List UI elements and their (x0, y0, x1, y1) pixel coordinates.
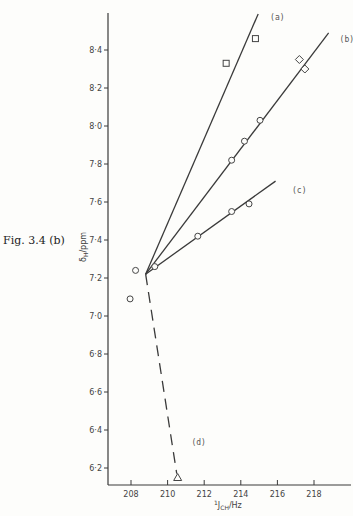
square-marker (252, 36, 258, 42)
fit-line (146, 274, 177, 474)
series-labels: (a)(b)(c)(d) (191, 13, 353, 448)
y-tick-label: 7·2 (89, 274, 102, 283)
y-tick-label: 8·2 (89, 84, 102, 93)
y-tick-label: 6·2 (89, 464, 102, 473)
circle-marker (229, 157, 235, 163)
y-tick-label: 6·6 (89, 388, 102, 397)
circle-marker (257, 117, 263, 123)
y-tick-label: 6·4 (89, 426, 102, 435)
series-label: (d) (191, 438, 205, 447)
figure-label: Fig. 3.4 (b) (3, 234, 65, 247)
data-markers (127, 36, 309, 481)
y-tick-label: 7·6 (89, 198, 102, 207)
circle-marker (152, 264, 158, 270)
x-tick-label: 212 (197, 490, 212, 499)
x-tick-label: 214 (233, 490, 248, 499)
x-tick-label: 208 (123, 490, 138, 499)
y-axis-title: δH/ppm (79, 232, 89, 262)
chart: Fig. 3.4 (b) 6·26·46·66·87·07·27·47·67·8… (0, 0, 353, 516)
circle-marker (133, 267, 139, 273)
x-tick-label: 210 (160, 490, 175, 499)
series-label: (c) (292, 186, 306, 195)
circle-marker (195, 233, 201, 239)
x-tick-label: 216 (270, 490, 285, 499)
circle-marker (127, 296, 133, 302)
fit-line (146, 14, 259, 274)
y-tick-label: 8·0 (89, 122, 102, 131)
fit-lines (146, 14, 329, 474)
diamond-marker (301, 65, 309, 73)
series-label: (a) (270, 13, 284, 22)
y-tick-label: 7·0 (89, 312, 102, 321)
y-tick-label: 8·4 (89, 46, 102, 55)
y-tick-label: 7·4 (89, 236, 102, 245)
x-tick-label: 218 (306, 490, 321, 499)
circle-marker (246, 201, 252, 207)
y-tick-label: 6·8 (89, 350, 102, 359)
square-marker (223, 60, 229, 66)
series-label: (b) (340, 35, 353, 44)
triangle-marker (174, 474, 182, 481)
y-tick-label: 7·8 (89, 160, 102, 169)
circle-marker (229, 209, 235, 215)
diamond-marker (295, 56, 303, 64)
axes: 6·26·46·66·87·07·27·47·67·88·08·28·42082… (89, 13, 351, 499)
circle-marker (241, 138, 247, 144)
x-axis-title: 1JCH/Hz (214, 499, 242, 511)
